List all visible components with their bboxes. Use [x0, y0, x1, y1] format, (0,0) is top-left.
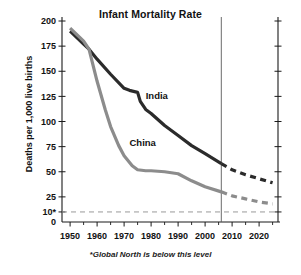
y-tick-label-150: 150 — [41, 66, 56, 76]
series-label-india: India — [146, 90, 169, 101]
x-tick-label-1970: 1970 — [114, 231, 134, 241]
y-tick-label-200: 200 — [41, 16, 56, 26]
y-tick-label-50: 50 — [46, 167, 56, 177]
series-projection-china — [221, 192, 272, 204]
y-tick-label-100: 100 — [41, 117, 56, 127]
x-tick-label-1960: 1960 — [87, 231, 107, 241]
y-tick-label-75: 75 — [46, 142, 56, 152]
y-tick-label-10: 10* — [42, 207, 56, 217]
x-tick-label-2000: 2000 — [195, 231, 215, 241]
series-label-china: China — [130, 137, 157, 148]
x-tick-label-1990: 1990 — [168, 231, 188, 241]
y-tick-label-125: 125 — [41, 92, 56, 102]
y-tick-label-25: 25 — [46, 192, 56, 202]
x-tick-label-2020: 2020 — [249, 231, 269, 241]
x-tick-label-1980: 1980 — [141, 231, 161, 241]
series-projection-india — [221, 164, 272, 183]
chart-footnote: *Global North is below this level — [0, 250, 301, 259]
y-tick-label-175: 175 — [41, 41, 56, 51]
y-tick-label-0: 0 — [51, 217, 56, 227]
chart-plot-area: 010*255075100125150175200195019601970198… — [0, 0, 301, 275]
x-tick-label-1950: 1950 — [60, 231, 80, 241]
x-tick-label-2010: 2010 — [222, 231, 242, 241]
chart-container: Infant Mortality Rate Deaths per 1,000 l… — [0, 0, 301, 275]
